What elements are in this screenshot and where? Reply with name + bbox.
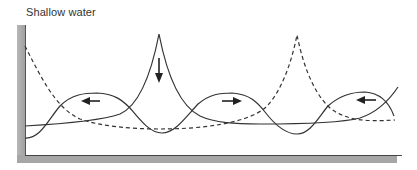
- floor-bar: [17, 155, 397, 163]
- arrow-left-1-icon: [81, 97, 100, 105]
- arrow-left-2-icon: [356, 96, 376, 104]
- frame: [17, 25, 402, 163]
- wave-diagram: [0, 0, 417, 170]
- arrow-right-icon: [222, 97, 242, 105]
- wall-bar: [17, 25, 25, 163]
- solid-traveling-curve: [25, 92, 394, 138]
- dashed-wave-curve: [25, 35, 395, 129]
- solid-peaked-curve: [25, 34, 398, 126]
- arrow-down-icon: [155, 58, 163, 83]
